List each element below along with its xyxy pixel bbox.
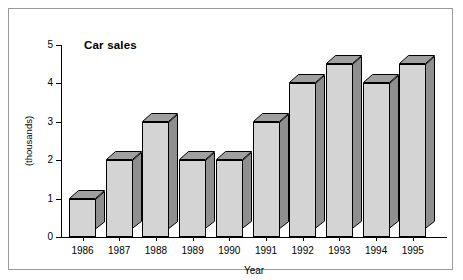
- bar-top-face: [289, 74, 325, 83]
- bar-top-face: [399, 55, 435, 64]
- y-tick-label: 3: [47, 117, 53, 127]
- bar-top-face: [106, 151, 142, 160]
- y-tick-mark: [56, 83, 61, 84]
- x-tick-mark: [119, 237, 120, 241]
- y-axis-line: [61, 45, 62, 237]
- bar-top-face: [326, 55, 362, 64]
- bar[interactable]: [326, 56, 362, 237]
- bar[interactable]: [363, 75, 399, 237]
- bar-side-face: [168, 114, 178, 237]
- bar-front-face: [106, 160, 133, 237]
- bar-side-face: [389, 75, 399, 237]
- bar[interactable]: [69, 191, 105, 237]
- plot-area: (thousands) 012345 198619871988198919901…: [61, 45, 447, 237]
- x-tick-label: 1995: [390, 245, 436, 256]
- x-tick-mark: [193, 237, 194, 241]
- y-tick-label: 2: [47, 155, 53, 165]
- bar-front-face: [253, 122, 280, 237]
- bar[interactable]: [179, 152, 215, 237]
- bar-front-face: [289, 83, 316, 237]
- x-axis-label: Year: [61, 265, 447, 276]
- bar-top-face: [216, 151, 252, 160]
- x-tick-mark: [303, 237, 304, 241]
- bar-front-face: [363, 83, 390, 237]
- y-tick-mark: [56, 45, 61, 46]
- bar[interactable]: [106, 152, 142, 237]
- y-tick-mark: [56, 199, 61, 200]
- bar-side-face: [242, 152, 252, 237]
- y-tick-label: 0: [47, 232, 53, 242]
- x-tick-mark: [266, 237, 267, 241]
- bar-front-face: [326, 64, 353, 237]
- bar-side-face: [425, 56, 435, 237]
- bar-top-face: [253, 113, 289, 122]
- y-tick-label: 5: [47, 40, 53, 50]
- bar-top-face: [142, 113, 178, 122]
- bar[interactable]: [253, 114, 289, 237]
- bar-front-face: [399, 64, 426, 237]
- y-axis-label-container: (thousands): [21, 45, 35, 237]
- x-tick-mark: [83, 237, 84, 241]
- bar-side-face: [205, 152, 215, 237]
- bar[interactable]: [216, 152, 252, 237]
- bar[interactable]: [399, 56, 435, 237]
- bar-side-face: [279, 114, 289, 237]
- x-tick-mark: [413, 237, 414, 241]
- bar-top-face: [69, 190, 105, 199]
- bar-front-face: [216, 160, 243, 237]
- bar-front-face: [69, 199, 96, 237]
- y-tick-mark: [56, 237, 61, 238]
- bar-front-face: [142, 122, 169, 237]
- bar-side-face: [315, 75, 325, 237]
- bar-top-face: [363, 74, 399, 83]
- bar[interactable]: [142, 114, 178, 237]
- chart-frame: Car sales (thousands) 012345 19861987198…: [8, 8, 453, 270]
- bar[interactable]: [289, 75, 325, 237]
- y-tick-label: 4: [47, 78, 53, 88]
- y-tick-label: 1: [47, 194, 53, 204]
- x-tick-mark: [156, 237, 157, 241]
- x-tick-mark: [229, 237, 230, 241]
- bar-side-face: [132, 152, 142, 237]
- y-axis-label: (thousands): [23, 116, 34, 166]
- y-tick-mark: [56, 160, 61, 161]
- x-tick-mark: [376, 237, 377, 241]
- bar-front-face: [179, 160, 206, 237]
- bar-side-face: [352, 56, 362, 237]
- y-tick-mark: [56, 122, 61, 123]
- x-tick-mark: [339, 237, 340, 241]
- bar-top-face: [179, 151, 215, 160]
